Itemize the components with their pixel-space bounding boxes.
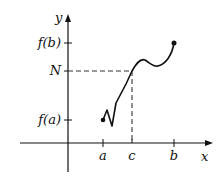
x-tick-label-c: c [128, 148, 136, 163]
end-point [172, 41, 177, 46]
x-axis-label: x [201, 149, 209, 164]
x-tick-label-b: b [170, 148, 178, 163]
y-tick-label-N: N [49, 63, 62, 78]
ivt-diagram: x y f(b) N f(a) a c b [0, 0, 222, 187]
y-tick-label-fb: f(b) [37, 35, 61, 50]
y-axis-label: y [54, 10, 63, 25]
x-tick-label-a: a [99, 148, 107, 163]
start-point [101, 118, 106, 123]
function-curve [103, 43, 174, 126]
diagram-svg: x y f(b) N f(a) a c b [0, 0, 222, 187]
x-axis-arrow-icon [205, 140, 213, 146]
y-axis-arrow-icon [65, 14, 71, 22]
y-tick-label-fa: f(a) [37, 112, 61, 127]
